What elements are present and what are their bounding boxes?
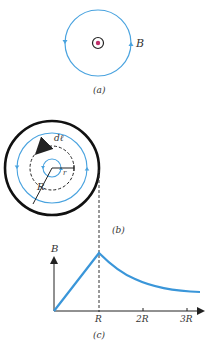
caption-a: (a) <box>93 85 106 95</box>
dl-arrow-icon <box>38 146 48 152</box>
label-R: R <box>36 181 45 192</box>
x-tick-label-R: R <box>94 314 102 324</box>
field-arrow-up-icon <box>129 42 134 46</box>
panel-c: B R 2R 3R (c) <box>50 243 203 340</box>
outer-arrow-right-icon <box>85 167 90 171</box>
field-label-b: B <box>135 37 144 50</box>
outer-arrow-left-icon <box>15 166 20 170</box>
x-tick-label-2R: 2R <box>135 314 149 324</box>
field-arrow-down-icon <box>63 40 68 44</box>
b-field-curve <box>54 253 200 311</box>
inner-arrow-left-icon <box>41 166 45 169</box>
x-tick-label-3R: 3R <box>180 314 193 324</box>
label-r: r <box>63 169 67 177</box>
label-dl: dℓ <box>54 133 64 143</box>
current-out-of-page-icon <box>96 41 100 45</box>
ampere-law-figure: B (a) dℓ R r (b) B R 2R 3R (c) <box>0 0 211 346</box>
caption-c: (c) <box>93 330 106 340</box>
caption-b: (b) <box>112 225 125 235</box>
panel-a: B (a) <box>63 10 145 95</box>
y-axis-label: B <box>50 243 58 254</box>
panel-b: dℓ R r (b) <box>5 121 125 235</box>
